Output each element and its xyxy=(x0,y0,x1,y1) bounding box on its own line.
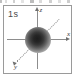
y-axis-label: y xyxy=(14,64,17,71)
electron-density-cloud xyxy=(25,27,51,53)
plot-area: z x y 1s xyxy=(4,6,71,73)
z-axis-label: z xyxy=(40,7,43,14)
x-axis-arrow-icon xyxy=(66,37,70,41)
orbital-panel: z x y 1s xyxy=(3,5,72,74)
x-axis-label: x xyxy=(67,31,70,38)
orbital-figure: z x y 1s xyxy=(0,0,75,76)
orbital-name-label: 1s xyxy=(8,9,19,19)
top-edge-artifact xyxy=(0,0,75,3)
z-axis-arrow-icon xyxy=(35,7,39,11)
